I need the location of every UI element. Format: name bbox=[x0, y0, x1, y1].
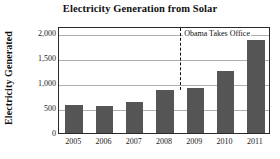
y-tick-label: 1,500 bbox=[18, 55, 56, 63]
x-axis-tick-labels: 2005200620072008200920102011 bbox=[58, 137, 270, 151]
y-axis-title: Electricity Generated bbox=[0, 20, 16, 136]
y-tick-label: 0 bbox=[18, 130, 56, 138]
y-tick-label: 1,000 bbox=[18, 80, 56, 88]
obama-takes-office-marker-line bbox=[180, 28, 181, 90]
bars-layer bbox=[59, 28, 269, 133]
x-tick-label-2010: 2010 bbox=[209, 137, 239, 146]
obama-takes-office-annotation-label: Obama Takes Office bbox=[183, 29, 251, 38]
bar-2005 bbox=[65, 105, 83, 133]
y-axis-tick-labels: 05001,0001,5002,000 bbox=[16, 0, 56, 159]
bar-2010 bbox=[217, 71, 235, 133]
y-tick-label: 2,000 bbox=[18, 30, 56, 38]
x-tick-label-2011: 2011 bbox=[240, 137, 270, 146]
x-tick-label-2008: 2008 bbox=[149, 137, 179, 146]
bar-2006 bbox=[96, 106, 114, 133]
bar-2008 bbox=[156, 90, 174, 133]
plot-area: Obama Takes Office bbox=[58, 27, 270, 134]
bar-2009 bbox=[187, 88, 205, 133]
y-tick-label: 500 bbox=[18, 105, 56, 113]
bar-2007 bbox=[126, 102, 144, 133]
x-tick-label-2006: 2006 bbox=[88, 137, 118, 146]
y-axis-title-text: Electricity Generated bbox=[3, 31, 14, 125]
bar-2011 bbox=[247, 40, 265, 133]
x-tick-label-2009: 2009 bbox=[179, 137, 209, 146]
x-tick-label-2005: 2005 bbox=[58, 137, 88, 146]
solar-generation-bar-chart: Electricity Generation from Solar Electr… bbox=[0, 0, 280, 159]
x-tick-label-2007: 2007 bbox=[119, 137, 149, 146]
